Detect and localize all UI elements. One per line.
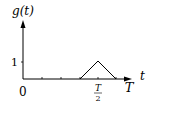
y-tick-label-1: 1 [11, 56, 18, 69]
x-tick-label-half-T: T 2 [94, 83, 102, 103]
half-T-denominator: 2 [95, 94, 100, 103]
half-T-numerator: T [95, 83, 102, 93]
triangle-pulse-line [80, 61, 116, 79]
y-axis-label: g(t) [12, 4, 34, 18]
x-axis-label: t [140, 69, 145, 83]
origin-label: 0 [19, 85, 27, 99]
triangle-pulse-chart: g(t) t 0 1 T 2 T [0, 0, 196, 113]
x-tick-label-T: T [125, 80, 135, 95]
y-axis-arrow-icon [21, 20, 26, 28]
